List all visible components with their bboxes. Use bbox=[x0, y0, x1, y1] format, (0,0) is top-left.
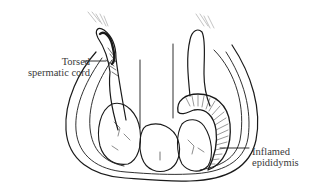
right-cord-hatching bbox=[196, 14, 214, 28]
right-testis-texture bbox=[188, 140, 204, 154]
inflamed-label-line1: Inflamed bbox=[252, 146, 299, 157]
scrotal-sac-inner-outline bbox=[76, 52, 249, 174]
inflamed-epididymis-label: Inflamed epididymis bbox=[252, 146, 299, 168]
scrotal-sac-outline bbox=[66, 45, 258, 181]
center-glans bbox=[140, 124, 180, 172]
left-testis-texture bbox=[112, 122, 130, 150]
torsed-label-line1: Torsed bbox=[28, 56, 90, 67]
torsed-spermatic-cord-label: Torsed spermatic cord bbox=[28, 56, 90, 78]
inflamed-epididymis bbox=[178, 94, 231, 170]
left-testis bbox=[99, 103, 141, 164]
right-testis bbox=[178, 120, 212, 171]
torsed-label-line2: spermatic cord bbox=[28, 67, 90, 78]
inflamed-label-line2: epididymis bbox=[252, 157, 299, 168]
left-cord-hatching bbox=[88, 12, 108, 26]
